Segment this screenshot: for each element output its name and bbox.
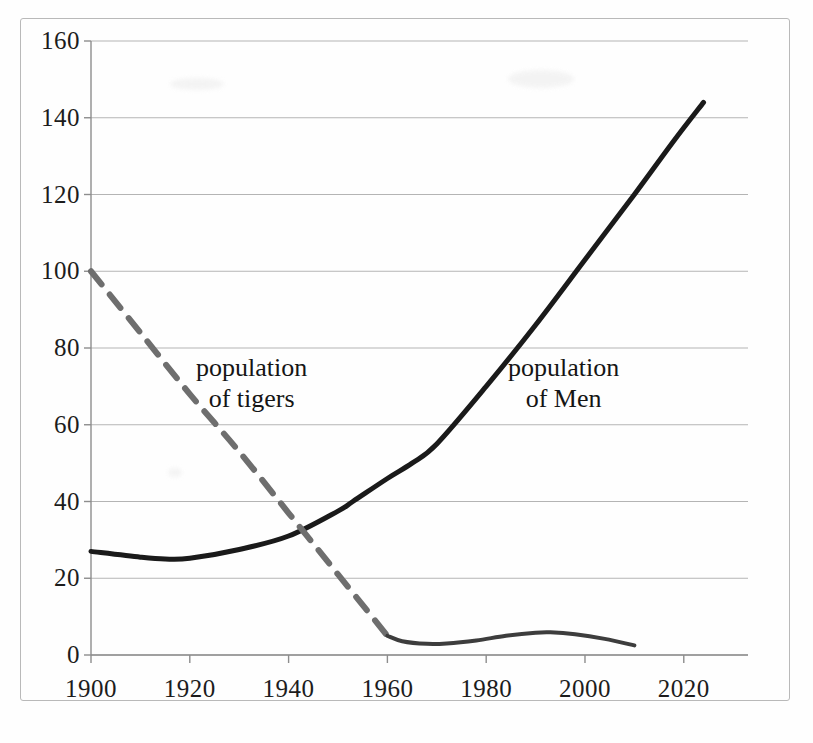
x-axis-tick-label-text: 1980 (434, 676, 538, 701)
x-axis-tick-label-text: 1920 (138, 676, 242, 701)
y-axis-tick-label-text: 140 (41, 105, 80, 130)
y-axis-tick-label-text: 160 (41, 28, 80, 53)
x-axis-tick-label-text: 2000 (533, 676, 637, 701)
chart-figure: 020406080100120140160 190019201940196019… (0, 0, 813, 743)
chart-plot-area (0, 0, 813, 743)
y-axis-tick-label-text: 20 (54, 565, 80, 590)
y-axis-tick-label-text: 0 (67, 642, 80, 667)
series-label-tigers-line2: of tigers (196, 383, 307, 414)
series-label-tigers-line1: population (196, 352, 307, 383)
x-axis-tick-label-text: 1940 (237, 676, 341, 701)
series-line-0 (91, 102, 704, 559)
y-axis-tick-label-text: 80 (54, 335, 80, 360)
y-axis-tick-label-text: 100 (41, 258, 80, 283)
y-axis-tick-label-text: 40 (54, 489, 80, 514)
series-label-men-line1: population (508, 352, 619, 383)
y-axis-tick-label-text: 120 (41, 182, 80, 207)
series-label-men: population of Men (508, 352, 619, 414)
y-axis-tick-label-text: 60 (54, 412, 80, 437)
x-axis-tick-label-text: 1960 (335, 676, 439, 701)
series-label-men-line2: of Men (508, 383, 619, 414)
series-label-tigers: population of tigers (196, 352, 307, 414)
chart-svg (0, 0, 813, 743)
series-line-2 (387, 632, 634, 645)
x-axis-tick-label-text: 2020 (632, 676, 736, 701)
x-axis-tick-label-text: 1900 (39, 676, 143, 701)
series-line-1 (91, 271, 387, 636)
